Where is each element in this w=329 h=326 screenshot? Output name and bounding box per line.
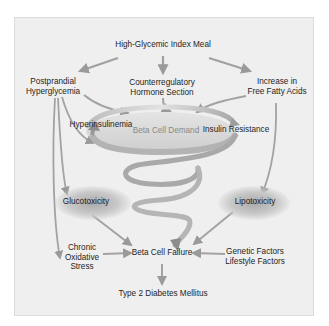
meal-label: High-Glycemic Index Meal — [115, 40, 211, 50]
meal-arrows — [80, 56, 250, 73]
ring-input-arrows — [84, 95, 246, 113]
genetic-lifestyle-factors-label: Genetic Factors Lifestyle Factors — [225, 247, 285, 266]
chronic-oxidative-stress-label: Chronic Oxidative Stress — [65, 243, 99, 272]
free-fatty-acids-label: Increase in Free Fatty Acids — [247, 77, 306, 96]
fatty-acids-to-lipotoxicity-arrow — [262, 103, 276, 194]
type-2-diabetes-label: Type 2 Diabetes Mellitus — [118, 289, 207, 299]
glucotoxicity-label: Glucotoxicity — [63, 197, 109, 207]
postprandial-hyperglycemia-label: Postprandial Hyperglycemia — [26, 77, 80, 96]
lipotoxicity-label: Lipotoxicity — [235, 197, 276, 207]
counterregulatory-label: Counterregulatory Hormone Section — [129, 78, 195, 97]
beta-cell-failure-label: Beta Cell Failure — [132, 248, 193, 258]
insulin-resistance-label: Insulin Resistance — [203, 125, 269, 135]
hyperinsulinemia-label: Hyperinsulinemia — [70, 120, 133, 130]
beta-cell-demand-label: Beta Cell Demand — [133, 126, 199, 136]
